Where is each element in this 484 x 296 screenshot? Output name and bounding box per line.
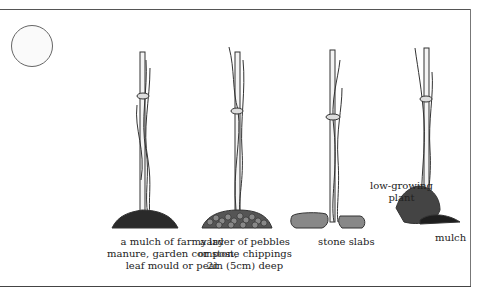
caption-mulch: mulch	[435, 232, 466, 244]
label-low-growing-plant: low-growing plant	[370, 180, 433, 204]
panel-manure-illustration	[112, 52, 178, 228]
caption-pebbles-layer: a layer of pebbles or stone chippings 2i…	[198, 236, 292, 272]
caption-stone-slabs: stone slabs	[318, 236, 375, 248]
panel-pebbles-illustration	[202, 47, 272, 228]
panel-slabs-illustration	[291, 50, 365, 228]
